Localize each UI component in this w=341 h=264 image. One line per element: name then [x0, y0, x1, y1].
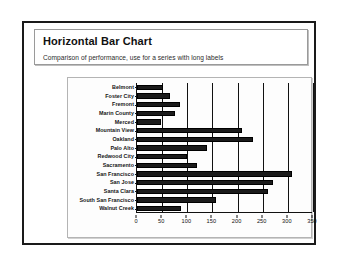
x-axis-tick-label: 300 [282, 218, 292, 224]
chart-plot-area [136, 83, 312, 213]
y-axis-label: San Francisco [97, 171, 135, 177]
x-axis-tick-label: 50 [158, 218, 164, 224]
page-subtitle: Comparison of performance, use for a ser… [43, 53, 299, 62]
bar [137, 145, 207, 150]
y-axis-label: Foster City [105, 93, 134, 99]
y-axis-label: Palo Alto [110, 145, 134, 151]
bar [137, 171, 292, 176]
chart-plot-inner: BelmontFoster CityFremontMarin CountyMer… [74, 83, 306, 233]
bar [137, 189, 268, 194]
bar [137, 206, 181, 211]
bar [137, 163, 197, 168]
page-title: Horizontal Bar Chart [43, 35, 299, 48]
y-axis-label: Fremont [112, 101, 134, 107]
slide-frame: Horizontal Bar Chart Comparison of perfo… [22, 21, 316, 245]
y-axis-label: Oakland [112, 136, 134, 142]
gridline [313, 83, 314, 212]
bar [137, 180, 273, 185]
slide-canvas: { "slide": { "title": "Horizontal Bar Ch… [0, 0, 341, 264]
x-axis-tick-label: 0 [134, 218, 137, 224]
y-axis-label: San Jose [110, 179, 134, 185]
x-axis-tick-label: 250 [257, 218, 267, 224]
y-axis-label: Mountain View [96, 127, 134, 133]
bar [137, 137, 253, 142]
x-axis-tick-label: 350 [307, 218, 317, 224]
bar [137, 119, 161, 124]
y-axis-label: Sacramento [103, 162, 134, 168]
bar [137, 197, 216, 202]
chart-panel: BelmontFoster CityFremontMarin CountyMer… [67, 77, 312, 238]
y-axis-label: Merced [115, 119, 134, 125]
y-axis-label: Santa Clara [104, 188, 134, 194]
y-axis-label: Marin County [99, 110, 134, 116]
y-axis-labels: BelmontFoster CityFremontMarin CountyMer… [74, 83, 136, 213]
x-axis-tick-label: 200 [232, 218, 242, 224]
y-axis-label: Walnut Creek [99, 205, 134, 211]
y-axis-label: South San Francisco [79, 197, 134, 203]
x-axis-labels: 050100150200250300350 [136, 215, 312, 227]
gridline [288, 83, 289, 212]
bar [137, 102, 180, 107]
y-axis-label: Belmont [112, 84, 134, 90]
bar [137, 85, 163, 90]
x-axis-tick-label: 100 [181, 218, 191, 224]
bar [137, 128, 242, 133]
bar [137, 93, 170, 98]
title-card: Horizontal Bar Chart Comparison of perfo… [34, 29, 308, 65]
y-axis-label: Redwood City [97, 153, 134, 159]
bar [137, 111, 175, 116]
bar [137, 154, 187, 159]
x-axis-tick-label: 150 [207, 218, 217, 224]
